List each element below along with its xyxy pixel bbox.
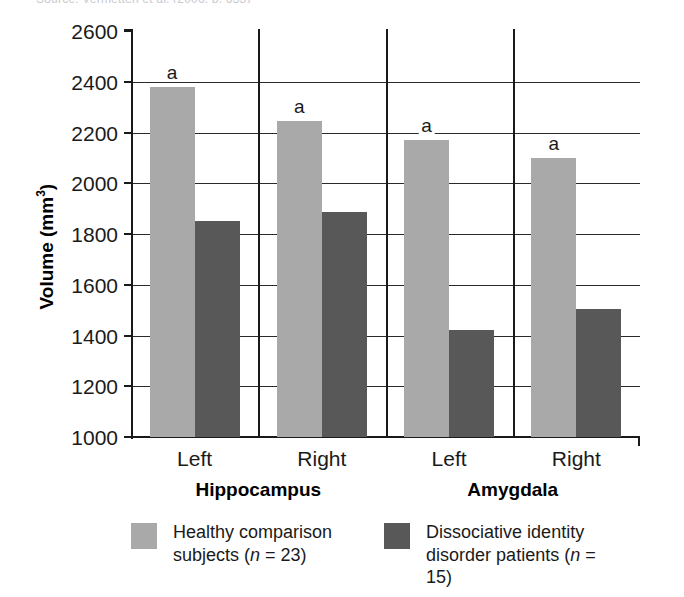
x-axis-tick-label: Right bbox=[297, 447, 346, 471]
legend-label: Healthy comparisonsubjects (n = 23) bbox=[173, 521, 332, 566]
legend-swatch-dark bbox=[384, 523, 410, 549]
bar bbox=[277, 121, 322, 437]
y-axis-tick-label: 2200 bbox=[28, 122, 118, 143]
legend-label: Dissociative identitydisorder patients (… bbox=[426, 521, 626, 589]
x-axis-tick-label: Left bbox=[432, 447, 467, 471]
x-axis-tick-label: Left bbox=[177, 447, 212, 471]
legend-swatch-light bbox=[131, 523, 157, 549]
bar bbox=[404, 140, 449, 437]
x-axis-tick-label: Right bbox=[552, 447, 601, 471]
legend-label-line1: Healthy comparison bbox=[173, 521, 332, 544]
y-axis-tick-label: 1800 bbox=[28, 224, 118, 245]
y-axis-tick-label: 1400 bbox=[28, 325, 118, 346]
y-axis-tick-label: 2000 bbox=[28, 173, 118, 194]
bar bbox=[195, 221, 240, 437]
y-axis-tick-label: 2600 bbox=[28, 21, 118, 42]
region-label-hippocampus: Hippocampus bbox=[195, 479, 321, 501]
legend-item: Healthy comparisonsubjects (n = 23) bbox=[131, 521, 332, 589]
y-axis-title: Volume (mm3) bbox=[34, 137, 57, 357]
legend: Healthy comparisonsubjects (n = 23)Disso… bbox=[131, 521, 651, 589]
y-axis-tick-label: 1600 bbox=[28, 274, 118, 295]
significance-marker: a bbox=[291, 97, 308, 116]
plot-area bbox=[131, 31, 640, 437]
significance-marker: a bbox=[546, 134, 563, 153]
legend-label-line2: subjects (n = 23) bbox=[173, 544, 332, 567]
legend-label-line2: disorder patients (n = 15) bbox=[426, 544, 626, 589]
significance-marker: a bbox=[164, 63, 181, 82]
significance-marker: a bbox=[418, 116, 435, 135]
legend-label-line1: Dissociative identity bbox=[426, 521, 626, 544]
y-axis-tick-label: 1000 bbox=[28, 427, 118, 448]
bar bbox=[150, 87, 195, 437]
x-axis-right-cap bbox=[638, 436, 640, 446]
region-label-amygdala: Amygdala bbox=[467, 479, 558, 501]
bar-chart-figure: Volume (mm3) 260024002200200018001600140… bbox=[0, 0, 684, 597]
bar bbox=[531, 158, 576, 437]
bar bbox=[449, 330, 494, 437]
bar bbox=[576, 309, 621, 437]
legend-item: Dissociative identitydisorder patients (… bbox=[384, 521, 626, 589]
bar bbox=[322, 212, 367, 437]
y-axis-tick-label: 2400 bbox=[28, 71, 118, 92]
y-axis-tick-label: 1200 bbox=[28, 376, 118, 397]
